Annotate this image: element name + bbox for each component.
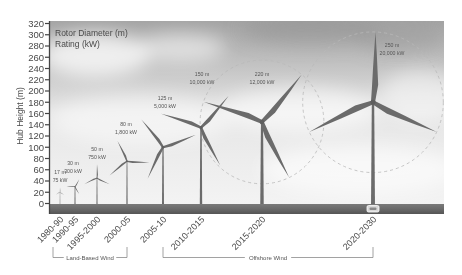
rotor-diameter-label: 150 m xyxy=(195,71,209,77)
turbine-hub xyxy=(199,126,202,129)
legend-rating: Rating (kW) xyxy=(55,39,100,49)
y-tick-label: 220 xyxy=(28,74,44,85)
rating-label: 75 kW xyxy=(53,177,68,183)
x-tick-label: 2000-05 xyxy=(102,214,132,244)
rotor-diameter-label: 30 m xyxy=(67,160,79,166)
rotor-diameter-label: 125 m xyxy=(158,95,172,101)
y-axis-label: Hub Height (m) xyxy=(15,87,25,145)
turbine-hub xyxy=(370,100,375,105)
legend-rotor-diameter: Rotor Diameter (m) xyxy=(55,28,128,38)
y-tick-label: 100 xyxy=(28,142,44,153)
rating-label: 20,000 kW xyxy=(380,50,405,56)
x-tick-label: 2020-2030 xyxy=(341,214,379,252)
rating-label: 12,000 kW xyxy=(250,79,275,85)
y-tick-label: 280 xyxy=(28,40,44,51)
y-tick-label: 300 xyxy=(28,29,44,40)
group-bracket-offshore: Offshore Wind xyxy=(163,247,373,261)
turbine-hub xyxy=(260,120,264,124)
ground-band xyxy=(50,204,444,214)
rating-label: 5,000 kW xyxy=(154,103,176,109)
y-tick-label: 60 xyxy=(33,164,44,175)
turbine-hub xyxy=(59,192,60,193)
rating-label: 10,000 kW xyxy=(190,79,215,85)
group-label: Land-Based Wind xyxy=(66,255,114,261)
y-tick-label: 140 xyxy=(28,119,44,130)
group-bracket-land-based: Land-Based Wind xyxy=(53,247,127,261)
rotor-diameter-label: 220 m xyxy=(255,71,269,77)
y-tick-label: 320 xyxy=(28,18,44,29)
rating-label: 750 kW xyxy=(88,154,106,160)
rotor-diameter-label: 80 m xyxy=(120,121,132,127)
wind-turbine-growth-chart: 17 m75 kW30 m300 kW50 m750 kW80 m1,800 k… xyxy=(0,0,462,275)
x-axis: 1980-901990-951995-20002000-052005-10201… xyxy=(35,214,378,252)
rotor-diameter-label: 50 m xyxy=(91,146,103,152)
y-tick-label: 20 xyxy=(33,187,44,198)
turbine-hub xyxy=(74,186,75,187)
rating-label: 300 kW xyxy=(64,168,82,174)
offshore-foundation-icon xyxy=(367,206,379,213)
group-brackets: Land-Based WindOffshore Wind xyxy=(53,247,373,261)
turbine-hub xyxy=(126,161,128,163)
x-tick-label: 2015-2020 xyxy=(230,214,268,252)
y-tick-label: 180 xyxy=(28,97,44,108)
x-tick-label: 2005-10 xyxy=(138,214,168,244)
y-tick-label: 120 xyxy=(28,130,44,141)
y-tick-label: 260 xyxy=(28,52,44,63)
y-tick-label: 0 xyxy=(39,198,44,209)
y-tick-label: 200 xyxy=(28,85,44,96)
y-tick-label: 40 xyxy=(33,175,44,186)
y-tick-label: 80 xyxy=(33,153,44,164)
rotor-diameter-label: 250 m xyxy=(385,42,399,48)
y-axis: 0204060801001201401601802002202402602803… xyxy=(28,18,49,214)
y-tick-label: 160 xyxy=(28,108,44,119)
y-tick-label: 240 xyxy=(28,63,44,74)
rating-label: 1,800 kW xyxy=(115,129,137,135)
turbine-hub xyxy=(162,146,165,149)
group-label: Offshore Wind xyxy=(249,255,287,261)
x-tick-label: 2010-2015 xyxy=(169,214,207,252)
turbine-hub xyxy=(96,178,97,179)
